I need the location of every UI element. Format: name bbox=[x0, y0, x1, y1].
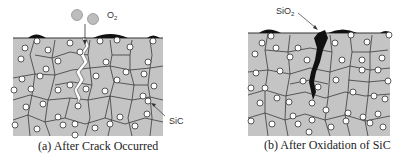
surface-oxide bbox=[259, 30, 281, 34]
o2-molecule-icon bbox=[72, 10, 83, 21]
caption-a: (a) After Crack Occurred bbox=[38, 139, 158, 154]
surface-oxide bbox=[147, 36, 160, 39]
caption-b: (b) After Oxidation of SiC bbox=[264, 138, 391, 153]
sio2-pointer bbox=[298, 13, 316, 28]
panel-a: O2 SiC bbox=[11, 10, 184, 139]
surface-oxide bbox=[93, 34, 128, 38]
panel-b: SiO2 bbox=[248, 6, 392, 136]
o2-molecule-icon bbox=[88, 14, 99, 25]
surface-oxide bbox=[28, 35, 46, 39]
o2-label: O2 bbox=[107, 10, 118, 21]
sio2-label: SiO2 bbox=[276, 6, 295, 17]
sic-label: SiC bbox=[169, 116, 184, 126]
